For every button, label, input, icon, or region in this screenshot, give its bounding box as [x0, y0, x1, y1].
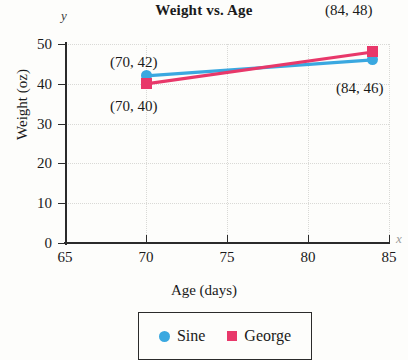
point-annotation-label: (84, 46) — [336, 80, 384, 97]
legend-circle-icon — [159, 331, 170, 342]
y-axis-line — [65, 42, 67, 245]
point-annotation-label: (70, 42) — [110, 54, 158, 71]
x-axis-tick-label: 65 — [45, 250, 85, 265]
x-axis-tick-label: 75 — [207, 250, 247, 265]
x-axis-tick-label: 85 — [369, 250, 408, 265]
x-axis-label: Age (days) — [0, 282, 408, 299]
gridline-vertical — [389, 44, 390, 243]
gridline-vertical — [227, 44, 228, 243]
legend-label: George — [244, 328, 291, 344]
x-axis-tick-label: 70 — [126, 250, 166, 265]
y-axis-tick-label: 0 — [18, 236, 52, 251]
chart-legend: SineGeorge — [138, 312, 312, 360]
x-axis-tick-label: 80 — [288, 250, 328, 265]
point-annotation-label: (70, 40) — [110, 98, 158, 115]
data-point-marker — [141, 78, 152, 89]
x-axis-symbol: x — [396, 231, 402, 247]
y-axis-tick-label: 10 — [18, 196, 52, 211]
point-annotation-label: (84, 48) — [325, 2, 373, 19]
y-axis-symbol: y — [61, 8, 67, 24]
data-point-marker — [367, 46, 378, 57]
gridline-vertical — [308, 44, 309, 243]
y-axis-label: Weight (oz) — [14, 45, 31, 165]
legend-label: Sine — [177, 328, 205, 344]
legend-square-icon — [227, 331, 237, 341]
legend-entry-george[interactable]: George — [227, 328, 291, 344]
legend-entry-sine[interactable]: Sine — [159, 328, 205, 344]
x-axis-line — [64, 242, 390, 244]
series-line-sine — [146, 60, 373, 76]
